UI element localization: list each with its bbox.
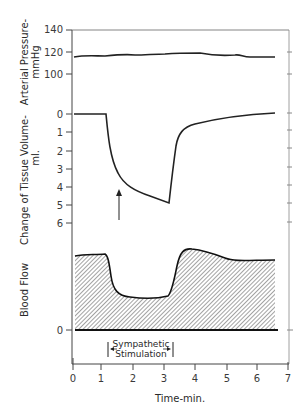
y-title-line: Arterial Pressure- (19, 18, 30, 105)
tick-label: 0 (57, 109, 63, 120)
volume-y-title: Change of Tissue Volume- ml. (19, 115, 41, 245)
y-title-line: ml. (30, 150, 41, 166)
flow-y-title: Blood Flow (19, 263, 30, 317)
tick-label: 100 (44, 69, 63, 80)
physiology-chart: 140 120 100 0 1 2 3 4 5 6 0 (0, 0, 306, 418)
tick-label: 0 (57, 325, 63, 336)
pressure-ticks: 140 120 100 (44, 24, 292, 80)
pressure-y-title: Arterial Pressure- mmHg (19, 18, 41, 105)
tick-label: 7 (285, 373, 291, 384)
x-axis-title: Time-min. (154, 393, 205, 404)
stimulation-label-2: Stimulation (115, 349, 166, 359)
tick-label: 120 (44, 47, 63, 58)
tick-label: 6 (57, 218, 63, 229)
pressure-trace (74, 53, 275, 57)
tick-label: 3 (161, 373, 167, 384)
tick-label: 0 (70, 373, 76, 384)
tick-label: 4 (192, 373, 198, 384)
tick-label: 140 (44, 24, 63, 35)
tick-label: 6 (254, 373, 260, 384)
tick-label: 2 (130, 373, 136, 384)
tick-label: 5 (224, 373, 230, 384)
stimulation-label-1: Sympathetic (113, 339, 170, 349)
y-title-line: Blood Flow (19, 263, 30, 317)
tissue-volume-trace (74, 113, 275, 203)
stimulation-marker: Sympathetic Stimulation (108, 339, 173, 359)
tick-label: 1 (57, 127, 63, 138)
y-title-line: mmHg (30, 45, 41, 78)
tick-label: 3 (57, 164, 63, 175)
tick-label: 5 (57, 200, 63, 211)
tick-label: 4 (57, 182, 63, 193)
tick-label: 2 (57, 146, 63, 157)
tick-label: 1 (98, 373, 104, 384)
arrow-up-icon (116, 189, 122, 220)
y-title-line: Change of Tissue Volume- (19, 115, 30, 245)
volume-ticks: 0 1 2 3 4 5 6 (57, 109, 292, 229)
x-ticks: 0 1 2 3 4 5 6 7 (70, 358, 291, 384)
